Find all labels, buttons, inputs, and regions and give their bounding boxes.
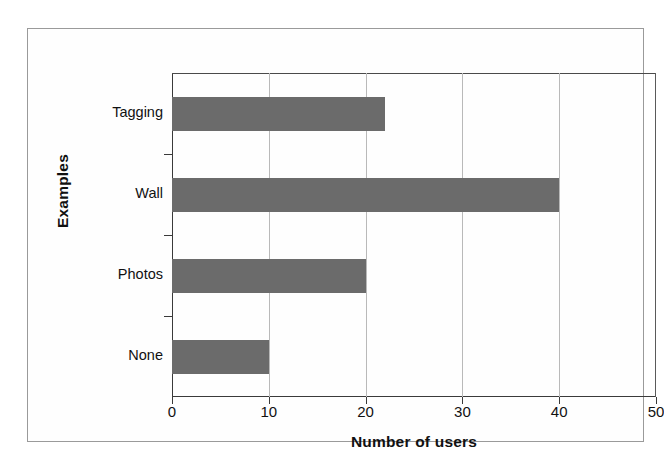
x-tick-label: 30 [454,403,471,420]
category-label-group: TaggingWallPhotosNone [72,29,172,353]
plot-border-top [172,73,656,74]
category-label: None [128,347,172,363]
category-label: Tagging [112,104,172,120]
x-tick-label: 10 [260,403,277,420]
plot-area [172,73,656,397]
bar [172,178,559,212]
x-tick-label: 0 [168,403,176,420]
x-tick-label-group: 01020304050 [172,403,656,427]
bar [172,259,366,293]
y-axis-tick [164,235,172,236]
bar [172,97,385,131]
plot-border-right [655,73,656,397]
x-axis-line [172,396,656,397]
bar [172,340,269,374]
figure-frame: Examples TaggingWallPhotosNone 010203040… [27,28,644,442]
gridline [559,73,560,397]
x-tick-label: 20 [357,403,374,420]
gridline [462,73,463,397]
x-tick-label: 50 [648,403,664,420]
category-label: Wall [135,185,172,201]
y-axis-tick [164,316,172,317]
category-label: Photos [118,266,172,282]
x-tick-label: 40 [551,403,568,420]
y-axis-tick [164,154,172,155]
x-axis-title: Number of users [172,433,656,451]
